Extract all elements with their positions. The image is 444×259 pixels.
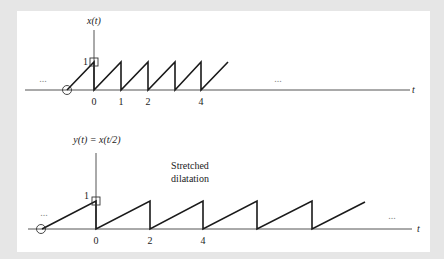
bottom-tick-4: 4: [201, 235, 206, 246]
bottom-tick-2: 2: [148, 235, 153, 246]
top-right-ellipsis: ...: [274, 73, 282, 84]
top-left-ellipsis: ...: [39, 73, 47, 84]
top-tick-4: 4: [199, 96, 204, 107]
top-y-axis-label: x(t): [86, 15, 102, 27]
annotation-stretched: Stretched: [171, 160, 209, 171]
top-tick-2: 2: [146, 96, 151, 107]
bottom-left-ellipsis: ...: [40, 207, 48, 218]
bottom-sawtooth-signal: [42, 201, 365, 229]
bottom-tick-0: 0: [94, 235, 99, 246]
top-plot: t x(t) 1 0 1 2 4 ... ...: [25, 15, 415, 107]
top-amplitude-label: 1: [83, 56, 88, 67]
bottom-right-ellipsis: ...: [388, 210, 396, 221]
signal-diagram: t x(t) 1 0 1 2 4 ... ... t y(t) = x(t/2)…: [0, 0, 444, 259]
bottom-amplitude-label: 1: [84, 190, 89, 201]
top-tick-1: 1: [119, 96, 124, 107]
bottom-plot: t y(t) = x(t/2) Stretched dilatation 1 0…: [28, 134, 420, 246]
bottom-y-axis-label: y(t) = x(t/2): [72, 134, 121, 146]
bottom-t-axis-label: t: [417, 223, 420, 234]
top-t-axis-label: t: [412, 84, 415, 95]
annotation-dilatation: dilatation: [171, 173, 209, 184]
top-tick-0: 0: [92, 96, 97, 107]
